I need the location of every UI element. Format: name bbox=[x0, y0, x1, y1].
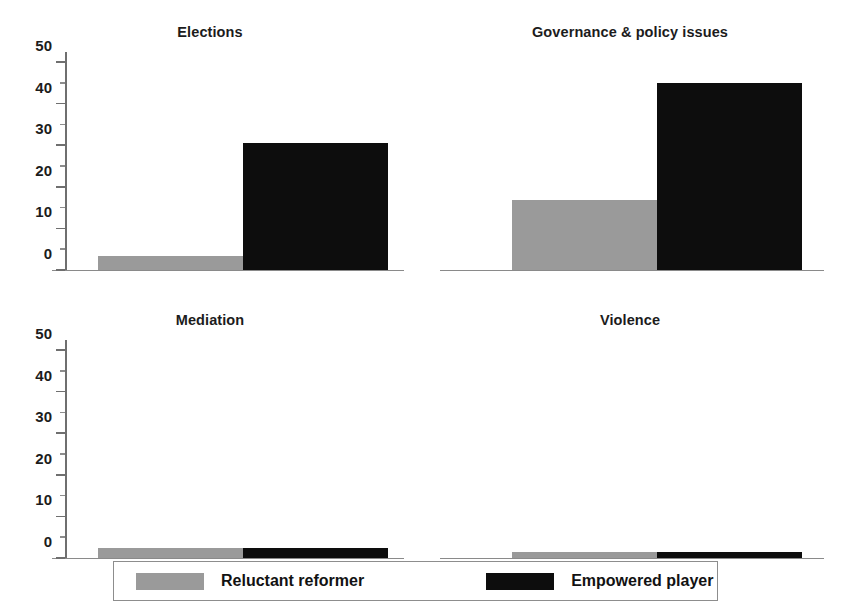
y-tick-label: 20 bbox=[35, 449, 52, 466]
y-axis-spine bbox=[65, 52, 67, 270]
panel-title: Mediation bbox=[0, 312, 420, 328]
y-tick-mark-minor bbox=[60, 165, 65, 167]
y-tick-mark bbox=[56, 186, 65, 188]
chart-legend: Reluctant reformer Empowered player bbox=[113, 561, 718, 601]
bar-empowered-player bbox=[243, 548, 388, 558]
y-tick-mark bbox=[56, 144, 65, 146]
bar-empowered-player bbox=[243, 143, 388, 270]
y-tick-label: 10 bbox=[35, 491, 52, 508]
y-tick-mark-minor bbox=[60, 248, 65, 250]
bar-reluctant-reformer bbox=[512, 200, 657, 270]
y-tick-mark bbox=[56, 61, 65, 63]
panel-elections: Elections 01020304050 bbox=[0, 0, 420, 288]
y-tick-label: 30 bbox=[35, 408, 52, 425]
legend-swatch-icon bbox=[486, 573, 554, 590]
bar-reluctant-reformer bbox=[512, 552, 657, 558]
bar-chart-figure: Elections 01020304050 Governance & polic… bbox=[0, 0, 841, 616]
bar-empowered-player bbox=[657, 552, 802, 558]
panel-title: Violence bbox=[420, 312, 840, 328]
y-tick-label: 30 bbox=[35, 120, 52, 137]
y-tick-mark bbox=[56, 228, 65, 230]
panel-title: Elections bbox=[0, 24, 420, 40]
plot-area: 01020304050 bbox=[66, 350, 404, 558]
y-tick-label: 0 bbox=[44, 533, 52, 550]
panel-mediation: Mediation 01020304050 bbox=[0, 288, 420, 576]
plot-area bbox=[466, 350, 824, 558]
y-tick-mark bbox=[56, 557, 65, 559]
bar-empowered-player bbox=[657, 83, 802, 270]
y-tick-mark-minor bbox=[60, 124, 65, 126]
y-tick-label: 50 bbox=[35, 325, 52, 342]
y-axis-spine bbox=[65, 340, 67, 558]
legend-entry-empowered-player: Empowered player bbox=[486, 572, 713, 590]
y-tick-mark-minor bbox=[60, 453, 65, 455]
y-tick-label: 10 bbox=[35, 203, 52, 220]
y-tick-mark bbox=[56, 269, 65, 271]
y-tick-label: 40 bbox=[35, 78, 52, 95]
plot-area: 01020304050 bbox=[66, 62, 404, 270]
legend-label: Empowered player bbox=[571, 572, 713, 590]
y-tick-mark bbox=[56, 391, 65, 393]
y-tick-label: 0 bbox=[44, 245, 52, 262]
y-tick-mark-minor bbox=[60, 370, 65, 372]
bar-reluctant-reformer bbox=[98, 256, 243, 270]
y-tick-mark bbox=[56, 103, 65, 105]
y-tick-mark-minor bbox=[60, 495, 65, 497]
bar-reluctant-reformer bbox=[98, 548, 243, 558]
y-tick-mark bbox=[56, 474, 65, 476]
y-tick-mark-minor bbox=[60, 207, 65, 209]
legend-swatch-icon bbox=[136, 573, 204, 590]
y-tick-label: 20 bbox=[35, 161, 52, 178]
panel-violence: Violence bbox=[420, 288, 840, 576]
panel-governance-policy-issues: Governance & policy issues bbox=[420, 0, 840, 288]
y-tick-mark bbox=[56, 516, 65, 518]
y-tick-mark-minor bbox=[60, 536, 65, 538]
legend-entry-reluctant-reformer: Reluctant reformer bbox=[136, 572, 364, 590]
y-tick-mark bbox=[56, 349, 65, 351]
legend-label: Reluctant reformer bbox=[221, 572, 364, 590]
y-tick-mark-minor bbox=[60, 412, 65, 414]
y-tick-mark-minor bbox=[60, 82, 65, 84]
y-tick-mark bbox=[56, 432, 65, 434]
y-tick-label: 40 bbox=[35, 366, 52, 383]
y-tick-label: 50 bbox=[35, 37, 52, 54]
plot-area bbox=[466, 62, 824, 270]
panel-title: Governance & policy issues bbox=[420, 24, 840, 40]
